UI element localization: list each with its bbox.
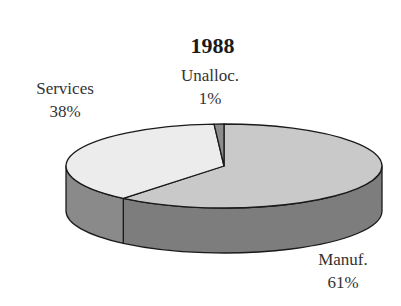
label-services: Services 38% <box>25 77 105 123</box>
label-unalloc-pct: 1% <box>170 87 250 110</box>
label-unalloc-name: Unalloc. <box>170 64 250 87</box>
label-manuf-pct: 61% <box>303 271 383 294</box>
label-services-name: Services <box>25 77 105 100</box>
label-manuf-name: Manuf. <box>303 248 383 271</box>
label-manuf: Manuf. 61% <box>303 248 383 294</box>
label-services-pct: 38% <box>25 100 105 123</box>
label-unalloc: Unalloc. 1% <box>170 64 250 110</box>
chart-title: 1988 <box>12 33 401 59</box>
